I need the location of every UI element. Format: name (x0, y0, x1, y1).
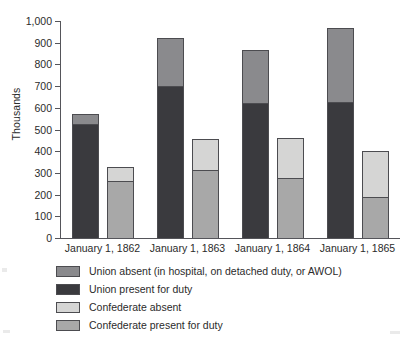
chart-legend: Union absent (in hospital, on detached d… (56, 262, 412, 334)
y-tick-label: 0 (4, 233, 52, 243)
bar-union-1862 (72, 21, 99, 238)
scan-artifact (3, 330, 10, 333)
y-tick-label-holder: 400 (0, 146, 52, 156)
bar-segment (362, 197, 389, 238)
y-tick-mark (55, 216, 61, 217)
bar-confederate-1863 (192, 21, 219, 238)
y-tick-mark (55, 86, 61, 87)
bar-segment (242, 50, 269, 104)
legend-item[interactable]: Confederate absent (56, 298, 412, 316)
x-axis-line (60, 238, 400, 239)
x-category-label: January 1, 1864 (230, 242, 315, 254)
bar-confederate-1862 (107, 21, 134, 238)
y-tick-mark (55, 43, 61, 44)
x-category-label: January 1, 1862 (60, 242, 145, 254)
y-tick-label-holder: 900 (0, 38, 52, 48)
y-tick-label: 300 (4, 168, 52, 178)
y-tick-label: 800 (4, 59, 52, 69)
y-tick-mark (55, 195, 61, 196)
y-tick-label: 900 (4, 38, 52, 48)
y-tick-mark (55, 238, 61, 239)
bar-segment (72, 114, 99, 124)
bar-segment (277, 138, 304, 178)
y-tick-label-holder: 0 (0, 233, 52, 243)
legend-item[interactable]: Union absent (in hospital, on detached d… (56, 262, 412, 280)
y-tick-label: 600 (4, 103, 52, 113)
y-tick-label-holder: 1,000 (0, 16, 52, 26)
y-tick-label-holder: 500 (0, 125, 52, 135)
y-tick-label-holder: 600 (0, 103, 52, 113)
legend-swatch-icon (56, 266, 80, 277)
legend-item[interactable]: Confederate present for duty (56, 316, 412, 334)
legend-swatch-icon (56, 320, 80, 331)
bar-segment (242, 103, 269, 238)
bar-union-1865 (327, 21, 354, 238)
legend-item-label: Confederate present for duty (89, 319, 223, 331)
bar-segment (327, 102, 354, 238)
y-tick-label-holder: 300 (0, 168, 52, 178)
legend-item-label: Confederate absent (89, 301, 181, 313)
bar-segment (327, 28, 354, 102)
bar-segment (192, 139, 219, 170)
bar-union-1864 (242, 21, 269, 238)
chart-root: Thousands 1,0009008007006005004003002001… (0, 0, 415, 340)
y-tick-mark (55, 173, 61, 174)
y-tick-mark (55, 21, 61, 22)
y-tick-mark (55, 130, 61, 131)
bar-confederate-1864 (277, 21, 304, 238)
bar-segment (192, 170, 219, 238)
bar-segment (277, 178, 304, 238)
legend-swatch-icon (56, 302, 80, 313)
legend-item-label: Union absent (in hospital, on detached d… (89, 265, 342, 277)
y-tick-label-holder: 800 (0, 59, 52, 69)
y-tick-label: 200 (4, 190, 52, 200)
y-tick-label: 700 (4, 81, 52, 91)
y-tick-label: 400 (4, 146, 52, 156)
x-category-label: January 1, 1863 (145, 242, 230, 254)
bar-segment (157, 86, 184, 238)
x-category-label: January 1, 1865 (315, 242, 400, 254)
bar-segment (157, 38, 184, 86)
scan-artifact (2, 268, 7, 272)
bar-union-1863 (157, 21, 184, 238)
legend-item[interactable]: Union present for duty (56, 280, 412, 298)
bar-segment (362, 151, 389, 197)
y-tick-label-holder: 100 (0, 211, 52, 221)
y-tick-mark (55, 151, 61, 152)
y-tick-label-holder: 200 (0, 190, 52, 200)
bar-segment (72, 124, 99, 238)
y-tick-label: 100 (4, 211, 52, 221)
y-tick-label: 1,000 (4, 16, 52, 26)
plot-area: Thousands 1,0009008007006005004003002001… (0, 0, 415, 258)
legend-item-label: Union present for duty (89, 283, 192, 295)
bar-confederate-1865 (362, 21, 389, 238)
bar-segment (107, 181, 134, 238)
bar-segment (107, 167, 134, 181)
legend-swatch-icon (56, 284, 80, 295)
y-tick-mark (55, 64, 61, 65)
y-tick-label-holder: 700 (0, 81, 52, 91)
y-tick-label: 500 (4, 125, 52, 135)
y-tick-mark (55, 108, 61, 109)
